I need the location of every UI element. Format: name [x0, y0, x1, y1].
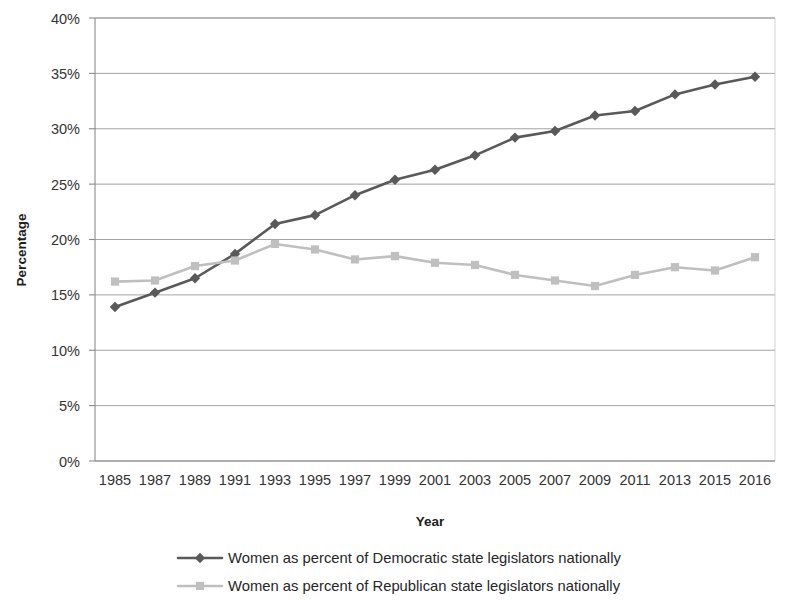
x-tick-label: 1999: [379, 472, 411, 488]
data-point-marker: [191, 262, 199, 270]
data-point-marker: [350, 190, 360, 200]
data-point-marker: [231, 256, 239, 264]
data-point-marker: [431, 259, 439, 267]
y-axis-title: Percentage: [14, 213, 29, 286]
x-tick-label: 2013: [659, 472, 691, 488]
legend-label: Women as percent of Republican state leg…: [228, 578, 621, 594]
data-point-marker: [510, 132, 520, 142]
x-tick-label: 1993: [259, 472, 291, 488]
data-point-marker: [671, 263, 679, 271]
data-point-marker: [631, 271, 639, 279]
chart-canvas: 40%35%30%25%20%15%10%5%0% 19851987198919…: [0, 0, 786, 600]
y-tick-label: 30%: [51, 121, 80, 137]
data-point-marker: [151, 276, 159, 284]
legend-marker-swatch: [196, 582, 204, 590]
x-tick-label: 2003: [459, 472, 491, 488]
data-point-marker: [111, 277, 119, 285]
y-axis-tick-marks: [89, 18, 95, 461]
x-tick-label: 2011: [619, 472, 650, 488]
data-point-marker: [390, 174, 400, 184]
y-tick-label: 0%: [59, 454, 80, 470]
y-tick-label: 25%: [51, 177, 80, 193]
x-tick-label: 2016: [739, 472, 771, 488]
x-tick-label: 2009: [579, 472, 611, 488]
x-tick-label: 1991: [219, 472, 251, 488]
x-axis-tick-labels: 1985198719891991199319951997199920012003…: [99, 472, 771, 488]
data-point-marker: [551, 276, 559, 284]
series-republican: [111, 240, 759, 290]
x-tick-label: 1987: [139, 472, 171, 488]
x-axis-title: Year: [416, 514, 445, 529]
data-point-marker: [271, 240, 279, 248]
x-tick-label: 2001: [419, 472, 451, 488]
data-point-marker: [471, 261, 479, 269]
data-point-marker: [670, 89, 680, 99]
y-tick-label: 40%: [51, 11, 80, 27]
series-democratic: [110, 71, 760, 312]
x-tick-label: 1989: [179, 472, 211, 488]
legend-label: Women as percent of Democratic state leg…: [228, 550, 621, 566]
y-tick-label: 10%: [51, 343, 80, 359]
x-tick-label: 2007: [539, 472, 571, 488]
data-point-marker: [630, 106, 640, 116]
chart-legend: Women as percent of Democratic state leg…: [178, 550, 621, 594]
data-point-marker: [550, 126, 560, 136]
data-point-marker: [710, 79, 720, 89]
gridlines: [95, 18, 775, 461]
x-tick-label: 2005: [499, 472, 531, 488]
data-point-marker: [391, 252, 399, 260]
y-tick-label: 35%: [51, 66, 80, 82]
line-chart: 40%35%30%25%20%15%10%5%0% 19851987198919…: [0, 0, 786, 600]
data-point-marker: [590, 110, 600, 120]
x-tick-label: 1997: [339, 472, 371, 488]
data-point-marker: [511, 271, 519, 279]
y-axis-tick-labels: 40%35%30%25%20%15%10%5%0%: [51, 11, 80, 470]
y-tick-label: 15%: [51, 287, 80, 303]
data-series-group: [110, 71, 760, 312]
data-point-marker: [310, 210, 320, 220]
x-tick-label: 2015: [699, 472, 731, 488]
y-tick-label: 5%: [59, 398, 80, 414]
data-point-marker: [591, 282, 599, 290]
data-point-marker: [430, 165, 440, 175]
x-tick-label: 1995: [299, 472, 331, 488]
data-point-marker: [110, 302, 120, 312]
y-tick-label: 20%: [51, 232, 80, 248]
series-line: [115, 77, 755, 307]
data-point-marker: [751, 253, 759, 261]
data-point-marker: [470, 150, 480, 160]
data-point-marker: [351, 255, 359, 263]
x-tick-label: 1985: [99, 472, 131, 488]
legend-marker-swatch: [195, 553, 205, 563]
data-point-marker: [711, 266, 719, 274]
data-point-marker: [311, 245, 319, 253]
data-point-marker: [150, 287, 160, 297]
